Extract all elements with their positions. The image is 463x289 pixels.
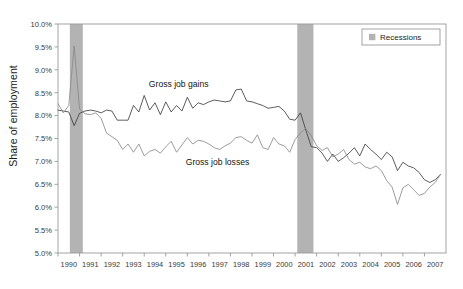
y-tick-label: 7.0%	[35, 157, 53, 166]
y-tick-label: 9.0%	[35, 66, 53, 75]
recession-bands	[70, 24, 314, 253]
recession-band	[70, 24, 83, 253]
plot-frame	[58, 24, 446, 253]
x-tick-label: 2006	[405, 260, 421, 269]
x-tick-label: 1991	[82, 260, 98, 269]
x-tick-label: 2001	[298, 260, 314, 269]
y-axis-title: Share of employment	[7, 41, 19, 191]
x-tick-label: 1994	[147, 260, 163, 269]
chart-title	[0, 0, 463, 6]
x-axis-ticks: 1990199119921993199419951996199719981999…	[58, 253, 443, 269]
x-tick-label: 2002	[319, 260, 335, 269]
chart-plot-area: 5.0%5.5%6.0%6.5%7.0%7.5%8.0%8.5%9.0%9.5%…	[0, 0, 463, 289]
x-tick-label: 2000	[276, 260, 292, 269]
y-tick-label: 8.0%	[35, 111, 53, 120]
y-tick-label: 5.0%	[35, 249, 53, 258]
series-line	[58, 89, 441, 182]
x-tick-label: 1997	[211, 260, 227, 269]
x-tick-label: 2003	[341, 260, 357, 269]
y-tick-label: 7.5%	[35, 134, 53, 143]
legend-swatch-icon	[369, 34, 375, 40]
x-tick-label: 1992	[104, 260, 120, 269]
y-tick-label: 5.5%	[35, 226, 53, 235]
data-series-lines	[58, 46, 441, 204]
y-tick-label: 10.0%	[30, 20, 52, 29]
legend-label: Recessions	[380, 33, 421, 42]
y-tick-label: 8.5%	[35, 89, 53, 98]
x-tick-label: 1999	[255, 260, 271, 269]
chart-legend[interactable]: Recessions	[362, 29, 440, 45]
x-tick-label: 1990	[61, 260, 77, 269]
recession-band	[297, 24, 313, 253]
x-tick-label: 1993	[125, 260, 141, 269]
series-line	[58, 46, 441, 204]
gross-job-gains-label: Gross job gains	[149, 79, 209, 89]
x-tick-label: 1995	[168, 260, 184, 269]
chart-figure: Share of employment 5.0%5.5%6.0%6.5%7.0%…	[0, 0, 463, 289]
y-tick-label: 9.5%	[35, 43, 53, 52]
x-tick-label: 2004	[362, 260, 378, 269]
y-tick-label: 6.5%	[35, 180, 53, 189]
x-tick-label: 2007	[427, 260, 443, 269]
x-tick-label: 1998	[233, 260, 249, 269]
axes-frame	[58, 24, 446, 253]
x-tick-label: 2005	[384, 260, 400, 269]
y-tick-label: 6.0%	[35, 203, 53, 212]
x-tick-label: 1996	[190, 260, 206, 269]
y-axis-ticks: 5.0%5.5%6.0%6.5%7.0%7.5%8.0%8.5%9.0%9.5%…	[30, 20, 58, 258]
gross-job-losses-label: Gross job losses	[186, 157, 250, 167]
